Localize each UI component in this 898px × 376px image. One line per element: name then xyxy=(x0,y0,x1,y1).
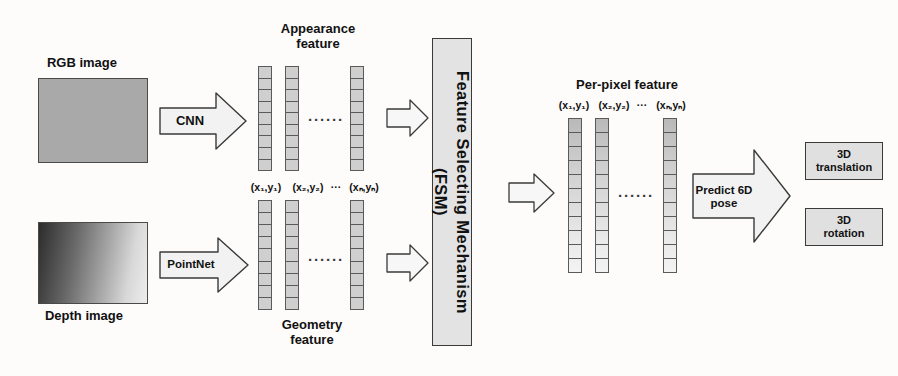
arrow-appearance-to-fsm xyxy=(386,98,430,138)
appearance-feature-label: Appearance feature xyxy=(242,22,394,52)
feature-cell xyxy=(286,262,298,274)
feature-cell xyxy=(351,201,363,213)
feature-cell xyxy=(286,225,298,237)
feature-cell xyxy=(351,298,363,309)
feature-cell xyxy=(259,262,271,274)
feature-cell xyxy=(664,259,676,272)
predict-6d-pose-arrow: Predict 6D pose xyxy=(692,148,792,244)
feature-cell xyxy=(259,67,271,79)
per-pixel-feature-label: Per-pixel feature xyxy=(552,78,702,93)
feature-cell xyxy=(259,90,271,102)
feature-cell xyxy=(259,249,271,261)
rgb-image xyxy=(38,78,148,163)
feature-cell xyxy=(664,189,676,203)
feature-cell xyxy=(286,237,298,249)
feature-cell xyxy=(351,67,363,79)
feature-cell xyxy=(569,189,581,203)
geometry-feature-label: Geometry feature xyxy=(242,318,382,348)
feature-cell xyxy=(351,125,363,137)
appearance-feature-column-1 xyxy=(258,66,272,171)
feature-cell xyxy=(664,119,676,133)
pointnet-arrow: PointNet xyxy=(158,236,250,294)
feature-cell xyxy=(664,231,676,245)
geometry-feature-ellipsis: ······ xyxy=(306,252,346,267)
feature-cell xyxy=(259,201,271,213)
feature-cell xyxy=(286,102,298,114)
feature-cell xyxy=(286,113,298,125)
rgb-image-label: RGB image xyxy=(22,56,142,71)
feature-cell xyxy=(569,175,581,189)
feature-cell xyxy=(596,175,608,189)
depth-image-label: Depth image xyxy=(20,309,148,324)
feature-cell xyxy=(351,262,363,274)
feature-cell xyxy=(596,189,608,203)
feature-cell xyxy=(259,274,271,286)
feature-cell xyxy=(286,136,298,148)
geometry-feature-column-n xyxy=(350,200,364,310)
feature-cell xyxy=(259,79,271,91)
feature-cell xyxy=(664,161,676,175)
feature-cell xyxy=(569,259,581,272)
feature-cell xyxy=(664,147,676,161)
cnn-arrow: CNN xyxy=(158,90,248,152)
feature-cell xyxy=(259,148,271,160)
feature-cell xyxy=(351,274,363,286)
output-3d-rotation: 3D rotation xyxy=(805,208,883,246)
arrow-fsm-to-perpixel xyxy=(508,172,556,214)
feature-cell xyxy=(596,147,608,161)
appearance-feature-column-n xyxy=(350,66,364,171)
feature-cell xyxy=(259,160,271,171)
feature-cell xyxy=(569,119,581,133)
geometry-feature-column-1 xyxy=(258,200,272,310)
feature-cell xyxy=(286,148,298,160)
per-pixel-feature-ellipsis: ······ xyxy=(614,188,658,203)
output-3d-translation: 3D translation xyxy=(805,142,883,180)
feature-cell xyxy=(351,148,363,160)
geometry-feature-column-2 xyxy=(285,200,299,310)
feature-cell xyxy=(286,274,298,286)
feature-cell xyxy=(286,125,298,137)
feature-cell xyxy=(259,102,271,114)
feature-cell xyxy=(569,231,581,245)
feature-cell xyxy=(286,201,298,213)
feature-cell xyxy=(351,102,363,114)
feature-cell xyxy=(351,213,363,225)
feature-cell xyxy=(351,225,363,237)
feature-cell xyxy=(596,161,608,175)
feature-cell xyxy=(259,213,271,225)
feature-cell xyxy=(286,79,298,91)
feature-cell xyxy=(596,119,608,133)
per-pixel-feature-column-1 xyxy=(568,118,582,273)
feature-cell xyxy=(259,286,271,298)
feature-cell xyxy=(351,286,363,298)
feature-cell xyxy=(569,133,581,147)
fsm-label: Feature Selecting Mechanism (FSM) xyxy=(430,71,475,314)
per-pixel-feature-column-n xyxy=(663,118,677,273)
feature-cell xyxy=(596,217,608,231)
feature-cell xyxy=(259,125,271,137)
feature-cell xyxy=(569,161,581,175)
feature-cell xyxy=(286,286,298,298)
feature-cell xyxy=(569,217,581,231)
feature-cell xyxy=(351,113,363,125)
feature-cell xyxy=(664,175,676,189)
feature-cell xyxy=(596,133,608,147)
per-pixel-feature-column-2 xyxy=(595,118,609,273)
architecture-diagram: RGB image CNN Depth image PointNet Appea… xyxy=(0,0,898,376)
feature-cell xyxy=(259,113,271,125)
appearance-feature-column-2 xyxy=(285,66,299,171)
feature-cell xyxy=(286,298,298,309)
feature-cell xyxy=(664,245,676,259)
feature-cell xyxy=(664,133,676,147)
feature-selecting-mechanism-block: Feature Selecting Mechanism (FSM) xyxy=(432,38,472,346)
feature-cell xyxy=(286,90,298,102)
arrow-geometry-to-fsm xyxy=(386,243,430,283)
feature-cell xyxy=(286,160,298,171)
feature-cell xyxy=(351,237,363,249)
depth-image xyxy=(38,222,148,304)
feature-coord-label-n: (xₙ,yₙ) xyxy=(338,182,390,194)
feature-cell xyxy=(259,237,271,249)
feature-cell xyxy=(351,160,363,171)
feature-cell xyxy=(259,298,271,309)
feature-cell xyxy=(569,203,581,217)
